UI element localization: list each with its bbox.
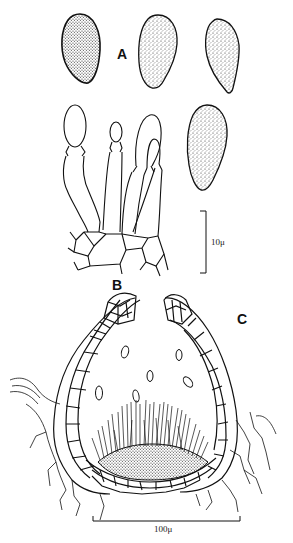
panel-label-c: C xyxy=(237,312,247,326)
scale-bar-10 xyxy=(200,211,206,273)
panel-label-a: A xyxy=(117,47,127,61)
scale-label-100: 100μ xyxy=(154,525,172,534)
illustration-canvas xyxy=(0,0,293,543)
panel-label-b: B xyxy=(112,278,122,292)
scale-label-10: 10μ xyxy=(211,238,225,247)
spore-3 xyxy=(206,19,240,93)
free-spores xyxy=(96,345,195,402)
hymenium-cells xyxy=(98,444,208,480)
spore-1 xyxy=(62,14,100,83)
scale-bar-100 xyxy=(93,516,240,521)
asci-cluster xyxy=(63,105,168,276)
spore-2 xyxy=(139,15,177,88)
spore-4 xyxy=(187,105,227,190)
figure-plate: A B C 10μ 100μ xyxy=(0,0,293,543)
